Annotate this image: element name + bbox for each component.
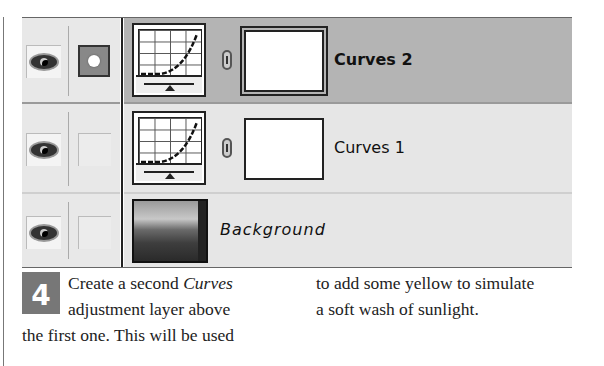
layer-mask-slot[interactable] — [78, 216, 111, 249]
layer-controls — [22, 104, 120, 194]
caption-line: the first one. This will be used — [22, 322, 234, 348]
slider-icon — [136, 163, 202, 181]
page-margin-rule — [3, 17, 4, 366]
column-divider — [68, 112, 69, 186]
caption-text: Create a second — [68, 273, 183, 293]
panel-column-divider — [120, 18, 124, 267]
curves-grid-icon — [138, 29, 202, 77]
caption-line: to add some yellow to simulate — [316, 270, 534, 296]
layer-controls — [22, 194, 120, 267]
curves-grid-icon — [138, 117, 202, 165]
layer-controls — [22, 18, 120, 104]
visibility-toggle[interactable] — [26, 45, 61, 78]
step-number-badge: 4 — [22, 272, 60, 314]
layer-row-background[interactable]: Background — [22, 194, 572, 267]
visibility-toggle[interactable] — [26, 133, 61, 166]
visibility-toggle[interactable] — [26, 216, 61, 249]
slider-icon — [136, 75, 202, 93]
layer-mask-icon[interactable] — [78, 45, 110, 77]
layer-content: Curves 2 — [124, 18, 572, 104]
caption-line: Create a second Curves — [68, 270, 233, 296]
eye-icon — [31, 55, 57, 69]
column-divider — [68, 202, 69, 259]
layer-row-curves-1[interactable]: Curves 1 — [22, 104, 572, 194]
layer-name[interactable]: Curves 2 — [334, 50, 413, 69]
layer-name[interactable]: Curves 1 — [334, 138, 405, 157]
layer-content: Curves 1 — [124, 104, 572, 194]
caption-emphasis: Curves — [183, 273, 233, 293]
mask-thumbnail[interactable] — [244, 30, 324, 92]
layer-content: Background — [124, 194, 572, 267]
eye-icon — [31, 143, 57, 157]
image-thumbnail[interactable] — [132, 199, 208, 263]
layer-mask-slot[interactable] — [78, 133, 111, 166]
chain-link-icon[interactable] — [222, 138, 232, 158]
layers-panel: Curves 2 Curves 1 — [22, 17, 572, 268]
curves-thumbnail[interactable] — [132, 111, 206, 185]
chain-link-icon[interactable] — [222, 50, 232, 70]
column-divider — [68, 26, 69, 96]
layer-name[interactable]: Background — [220, 220, 326, 239]
mask-thumbnail[interactable] — [244, 118, 324, 180]
caption-line: a soft wash of sunlight. — [316, 296, 479, 322]
eye-icon — [31, 226, 57, 240]
caption-line: adjustment layer above — [68, 296, 230, 322]
curves-thumbnail[interactable] — [132, 23, 206, 97]
layer-row-curves-2[interactable]: Curves 2 — [22, 18, 572, 104]
